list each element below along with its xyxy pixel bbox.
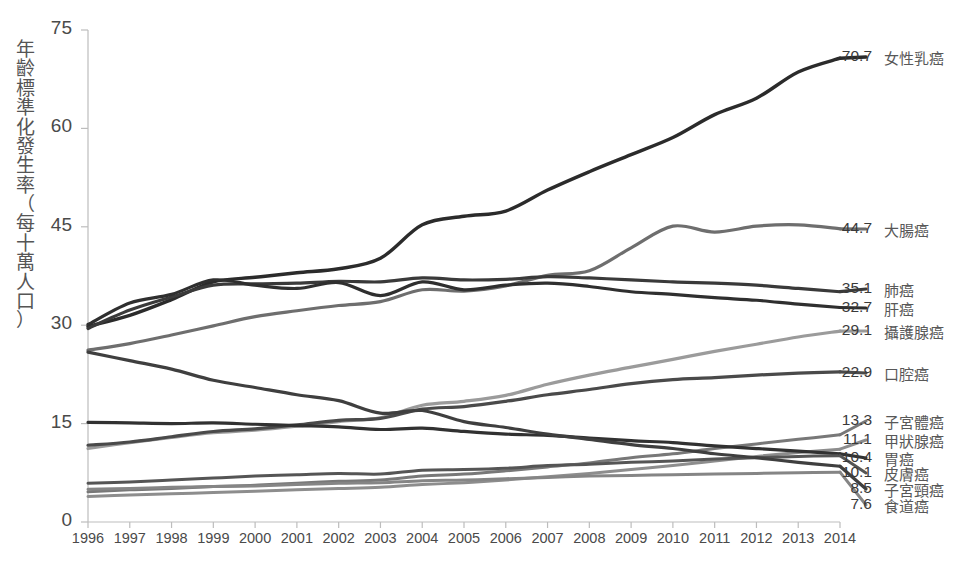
series-name-label: 子宮體癌 <box>884 411 944 432</box>
x-tick-label: 2010 <box>653 530 693 546</box>
x-tick-label: 2009 <box>611 530 651 546</box>
plot-area <box>0 0 963 567</box>
x-tick-label: 2013 <box>778 530 818 546</box>
x-tick-label: 1998 <box>152 530 192 546</box>
series-value-label: 11.1 <box>828 430 872 448</box>
x-tick-label: 1997 <box>110 530 150 546</box>
y-tick-label: 45 <box>32 214 72 236</box>
series-value-label: 35.1 <box>828 279 872 297</box>
x-tick-label: 2004 <box>402 530 442 546</box>
cancer-incidence-line-chart: 年齡標準化發生率（每十萬人口） 01530456075 199619971998… <box>0 0 963 567</box>
x-tick-label: 2008 <box>569 530 609 546</box>
x-tick-label: 2001 <box>277 530 317 546</box>
x-tick-label: 2000 <box>235 530 275 546</box>
series-value-label: 22.9 <box>828 363 872 381</box>
x-tick-label: 1996 <box>68 530 108 546</box>
cropped-footnote <box>700 556 960 567</box>
x-tick-label: 1999 <box>193 530 233 546</box>
x-tick-label: 2003 <box>360 530 400 546</box>
x-tick-label: 2011 <box>695 530 735 546</box>
series-value-label: 7.6 <box>828 495 872 513</box>
series-name-label: 攝護腺癌 <box>884 321 944 342</box>
series-name-label: 女性乳癌 <box>884 47 944 68</box>
x-tick-label: 2007 <box>528 530 568 546</box>
x-tick-label: 2005 <box>444 530 484 546</box>
series-line <box>88 352 840 466</box>
series-value-label: 70.7 <box>828 47 872 65</box>
x-tick-label: 2012 <box>736 530 776 546</box>
series-name-label: 食道癌 <box>884 495 929 516</box>
y-tick-label: 0 <box>32 509 72 531</box>
y-tick-label: 60 <box>32 115 72 137</box>
series-name-label: 口腔癌 <box>884 363 929 384</box>
series-name-label: 肺癌 <box>884 279 914 300</box>
series-value-label: 13.3 <box>828 411 872 429</box>
series-value-label: 44.7 <box>828 219 872 237</box>
y-tick-label: 15 <box>32 411 72 433</box>
series-name-label: 肝癌 <box>884 298 914 319</box>
series-value-label: 29.1 <box>828 321 872 339</box>
series-line <box>88 372 840 445</box>
x-tick-label: 2002 <box>319 530 359 546</box>
series-lines <box>88 58 840 496</box>
series-value-label: 32.7 <box>828 298 872 316</box>
series-name-label: 大腸癌 <box>884 219 929 240</box>
x-tick-label: 2014 <box>820 530 860 546</box>
y-tick-label: 30 <box>32 312 72 334</box>
y-tick-label: 75 <box>32 17 72 39</box>
x-axis <box>88 522 840 528</box>
x-tick-label: 2006 <box>486 530 526 546</box>
series-line <box>88 58 840 326</box>
series-line <box>88 422 840 453</box>
